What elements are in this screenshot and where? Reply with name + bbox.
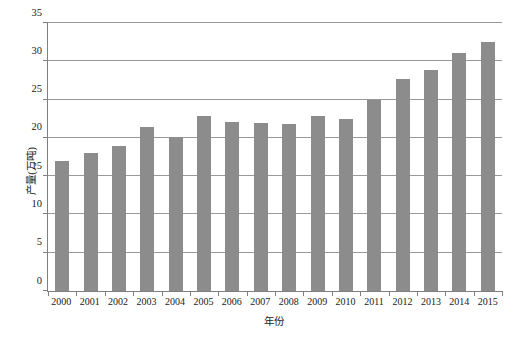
y-tick-label: 5 bbox=[37, 237, 42, 248]
bar bbox=[424, 70, 438, 291]
x-tick-label: 2005 bbox=[189, 296, 217, 307]
bar bbox=[339, 119, 353, 291]
bar bbox=[481, 42, 495, 291]
bar-slot bbox=[445, 23, 473, 291]
bar bbox=[225, 122, 239, 291]
bar-slot bbox=[332, 23, 360, 291]
x-tick-label: 2009 bbox=[303, 296, 331, 307]
y-tick-label: 0 bbox=[37, 275, 42, 286]
bar-slot bbox=[417, 23, 445, 291]
bar-slot bbox=[76, 23, 104, 291]
bar-slot bbox=[275, 23, 303, 291]
bar-slot bbox=[48, 23, 76, 291]
plot-area: 05101520253035 bbox=[47, 23, 502, 292]
x-tick-label: 2014 bbox=[445, 296, 473, 307]
bar-slot bbox=[303, 23, 331, 291]
bar bbox=[282, 124, 296, 291]
bar bbox=[254, 123, 268, 291]
bars-layer bbox=[48, 23, 502, 291]
bar bbox=[140, 127, 154, 291]
y-tick-label: 10 bbox=[32, 199, 43, 210]
x-tick-label: 2006 bbox=[218, 296, 246, 307]
bar-slot bbox=[474, 23, 502, 291]
bar-slot bbox=[218, 23, 246, 291]
bar bbox=[112, 146, 126, 291]
y-tick-label: 20 bbox=[32, 122, 43, 133]
bar bbox=[396, 79, 410, 291]
x-tick-label: 2004 bbox=[161, 296, 189, 307]
x-tick-label: 2003 bbox=[132, 296, 160, 307]
bar bbox=[197, 116, 211, 291]
x-tick-label: 2015 bbox=[474, 296, 502, 307]
bar bbox=[169, 137, 183, 291]
bar bbox=[84, 153, 98, 291]
x-tick-label: 2001 bbox=[75, 296, 103, 307]
x-tick-label: 2011 bbox=[360, 296, 388, 307]
y-tick-label: 25 bbox=[32, 84, 43, 95]
bar-slot bbox=[162, 23, 190, 291]
y-tick-label: 30 bbox=[32, 46, 43, 57]
bar-slot bbox=[247, 23, 275, 291]
x-tick-label: 2010 bbox=[331, 296, 359, 307]
x-tick-label: 2013 bbox=[417, 296, 445, 307]
bar-slot bbox=[190, 23, 218, 291]
y-tick-label: 35 bbox=[32, 7, 43, 18]
bar-slot bbox=[133, 23, 161, 291]
y-tick-label: 15 bbox=[32, 160, 43, 171]
x-axis-tick-labels: 2000200120022003200420052006200720082009… bbox=[47, 296, 502, 307]
x-tick-mark bbox=[502, 291, 503, 296]
x-tick-label: 2000 bbox=[47, 296, 75, 307]
x-tick-label: 2012 bbox=[388, 296, 416, 307]
bar bbox=[55, 161, 69, 291]
bar bbox=[367, 100, 381, 291]
x-axis-title: 年份 bbox=[47, 313, 502, 328]
x-tick-label: 2008 bbox=[275, 296, 303, 307]
bar-slot bbox=[360, 23, 388, 291]
bar-slot bbox=[389, 23, 417, 291]
bar-slot bbox=[105, 23, 133, 291]
x-tick-label: 2007 bbox=[246, 296, 274, 307]
x-tick-label: 2002 bbox=[104, 296, 132, 307]
bar bbox=[311, 116, 325, 291]
bar-chart: 产量(万吨) 05101520253035 200020012002200320… bbox=[0, 0, 517, 341]
bar bbox=[452, 53, 466, 291]
